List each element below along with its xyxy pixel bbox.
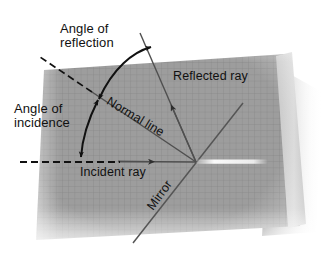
mirror-highlight-streak bbox=[196, 160, 268, 164]
label-incident-ray: Incident ray bbox=[80, 166, 146, 179]
reflection-diagram-figure: Angle of reflection Angle of incidence R… bbox=[0, 0, 328, 258]
label-reflected-ray: Reflected ray bbox=[173, 70, 248, 83]
label-angle-of-reflection: Angle of reflection bbox=[60, 22, 114, 50]
label-angle-of-incidence: Angle of incidence bbox=[14, 102, 70, 130]
